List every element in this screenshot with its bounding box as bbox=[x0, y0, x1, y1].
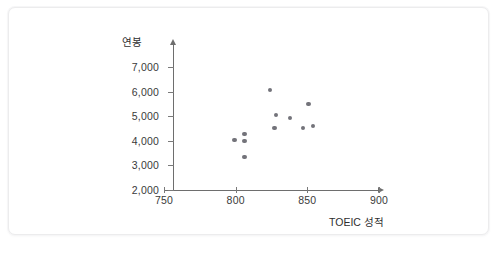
x-axis-tick-label: 800 bbox=[214, 194, 258, 206]
figure-card: 연봉 TOEIC 성적 2,0003,0004,0005,0006,0007,0… bbox=[8, 7, 489, 235]
y-axis-tick-label: 7,000 bbox=[103, 61, 159, 73]
data-point bbox=[306, 102, 311, 107]
x-axis-tick bbox=[164, 187, 165, 193]
y-axis-tick bbox=[168, 141, 174, 142]
y-axis-tick-label-holder: 4,000 bbox=[103, 135, 159, 147]
y-axis-tick bbox=[168, 116, 174, 117]
x-axis-title: TOEIC 성적 bbox=[329, 214, 384, 229]
y-axis-title: 연봉 bbox=[122, 34, 142, 49]
x-axis-tick bbox=[379, 187, 380, 193]
x-axis-tick-label: 750 bbox=[142, 194, 186, 206]
x-axis-tick bbox=[307, 187, 308, 193]
y-axis-tick-label: 6,000 bbox=[103, 86, 159, 98]
y-axis-tick bbox=[168, 67, 174, 68]
y-axis-tick-label-holder: 5,000 bbox=[103, 110, 159, 122]
y-axis-tick bbox=[168, 165, 174, 166]
y-axis-tick bbox=[168, 92, 174, 93]
data-point bbox=[232, 138, 237, 143]
data-point bbox=[268, 88, 273, 93]
data-point bbox=[242, 132, 247, 137]
data-point bbox=[311, 124, 316, 129]
data-point bbox=[272, 126, 277, 131]
y-axis-tick-label-holder: 3,000 bbox=[103, 159, 159, 171]
x-axis-line bbox=[164, 190, 379, 191]
data-point bbox=[242, 139, 247, 144]
x-axis-tick-label: 900 bbox=[357, 194, 401, 206]
x-axis-tick bbox=[236, 187, 237, 193]
y-axis-tick-label-holder: 6,000 bbox=[103, 86, 159, 98]
data-point bbox=[288, 116, 293, 121]
y-axis-tick bbox=[168, 190, 174, 191]
y-axis-arrow-icon bbox=[170, 39, 176, 45]
x-axis-tick-label: 850 bbox=[285, 194, 329, 206]
data-point bbox=[301, 126, 306, 131]
data-point bbox=[242, 155, 247, 160]
y-axis-tick-label-holder: 7,000 bbox=[103, 61, 159, 73]
y-axis-tick-label: 4,000 bbox=[103, 135, 159, 147]
data-point bbox=[274, 113, 279, 118]
scatter-plot: 연봉 TOEIC 성적 2,0003,0004,0005,0006,0007,0… bbox=[9, 8, 490, 236]
y-axis-tick-label: 3,000 bbox=[103, 159, 159, 171]
y-axis-tick-label: 5,000 bbox=[103, 110, 159, 122]
